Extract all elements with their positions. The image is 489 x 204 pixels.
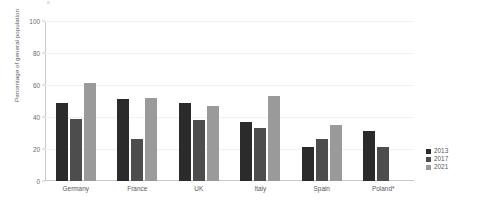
bar-2017-Poland*: [377, 147, 389, 181]
bar-groups: GermanyFranceUKItalySpainPoland*: [45, 21, 414, 181]
legend-swatch-icon: [426, 157, 431, 162]
legend-label: 2021: [434, 164, 448, 170]
legend-item-2021: 2021: [426, 164, 448, 170]
x-axis-label: Poland*: [353, 185, 415, 192]
x-axis-label: UK: [168, 185, 230, 192]
legend-label: 2013: [434, 148, 448, 154]
legend-swatch-icon: [426, 165, 431, 170]
y-tick-label: 100: [29, 18, 40, 25]
plot-area: 020406080100 GermanyFranceUKItalySpainPo…: [45, 21, 414, 181]
bar-2021-Italy: [268, 96, 280, 181]
y-axis-title: Percentage of general population: [13, 0, 20, 126]
bar-2013-Italy: [240, 122, 252, 181]
bar-2017-Italy: [254, 128, 266, 181]
y-tick-label: 40: [33, 114, 40, 121]
bar-2021-France: [145, 98, 157, 181]
bar-2013-Poland*: [363, 131, 375, 181]
bar-2013-France: [117, 99, 129, 181]
bar-group: UK: [168, 21, 230, 181]
bar-2021-Spain: [330, 125, 342, 181]
bar-2017-UK: [193, 120, 205, 181]
legend-label: 2017: [434, 156, 448, 162]
y-tick-label: 80: [33, 50, 40, 57]
x-axis-label: France: [107, 185, 169, 192]
bar-group: Spain: [291, 21, 353, 181]
y-tick-label: 0: [36, 178, 40, 185]
legend-swatch-icon: [426, 149, 431, 154]
clipped-mark: [47, 1, 50, 4]
bar-2013-Germany: [56, 103, 68, 181]
bar-2021-Germany: [84, 83, 96, 181]
bar-2017-Germany: [70, 119, 82, 181]
bar-group: Italy: [230, 21, 292, 181]
legend-item-2017: 2017: [426, 156, 448, 162]
chart-legend: 201320172021: [426, 148, 448, 170]
bar-chart: Percentage of general population 0204060…: [0, 0, 489, 204]
legend-item-2013: 2013: [426, 148, 448, 154]
y-tick-label: 60: [33, 82, 40, 89]
bar-2017-France: [131, 139, 143, 181]
bar-group: Poland*: [353, 21, 415, 181]
bar-group: France: [107, 21, 169, 181]
bar-2013-UK: [179, 103, 191, 181]
x-axis-label: Spain: [291, 185, 353, 192]
bar-2013-Spain: [302, 147, 314, 181]
bar-2021-UK: [207, 106, 219, 181]
y-tick-label: 20: [33, 146, 40, 153]
bar-group: Germany: [45, 21, 107, 181]
bar-2017-Spain: [316, 139, 328, 181]
x-axis-label: Germany: [45, 185, 107, 192]
x-axis-label: Italy: [230, 185, 292, 192]
